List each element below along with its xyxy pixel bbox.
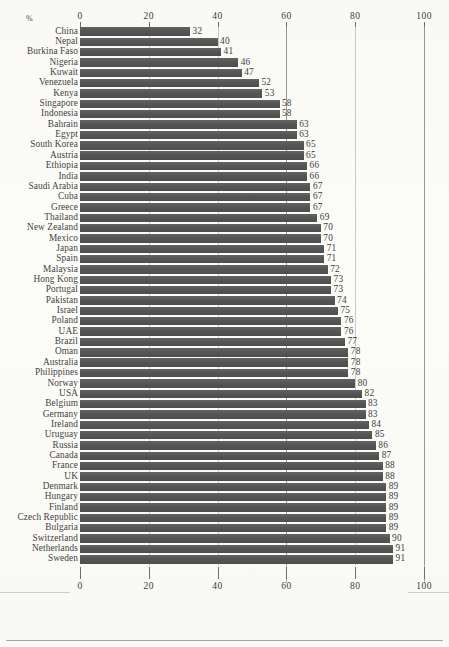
bar-value-label: 78 xyxy=(351,367,361,377)
bar xyxy=(80,296,335,304)
category-label: Oman xyxy=(55,346,78,356)
category-label: Canada xyxy=(50,450,78,460)
bar xyxy=(80,462,383,470)
bar-value-label: 89 xyxy=(389,502,399,512)
category-label: Burkina Faso xyxy=(27,46,78,56)
bar-value-label: 76 xyxy=(344,326,354,336)
category-label: Cuba xyxy=(58,191,78,201)
category-label: Indonesia xyxy=(41,108,78,118)
category-label: Australia xyxy=(43,357,78,367)
bar xyxy=(80,545,393,553)
bar xyxy=(80,255,324,263)
bar-value-label: 71 xyxy=(327,243,337,253)
category-label: Bulgaria xyxy=(45,522,78,532)
category-label: Belgium xyxy=(45,398,78,408)
bar-value-label: 58 xyxy=(282,108,292,118)
category-label: UK xyxy=(64,471,78,481)
bar-value-label: 89 xyxy=(389,512,399,522)
bottom-axis-tick-label: 60 xyxy=(281,581,292,591)
bar-value-label: 78 xyxy=(351,357,361,367)
bottom-axis-tick-label: 80 xyxy=(350,581,361,591)
bottom-axis-tick-label: 20 xyxy=(144,581,155,591)
bar-value-label: 83 xyxy=(368,409,378,419)
bar xyxy=(80,555,393,563)
bar-value-label: 77 xyxy=(347,336,357,346)
category-label: Sweden xyxy=(48,553,78,563)
bottom-axis-tick-label: 0 xyxy=(77,581,82,591)
bar xyxy=(80,131,297,139)
category-label: Malaysia xyxy=(43,264,78,274)
bar-value-label: 75 xyxy=(341,305,351,315)
bottom-axis-tick-mark xyxy=(355,567,356,579)
category-label: Pakistan xyxy=(46,295,78,305)
bar xyxy=(80,120,297,128)
category-label: Kuwait xyxy=(50,67,78,77)
bottom-axis-tick-label: 100 xyxy=(416,581,432,591)
category-label: Norway xyxy=(47,378,78,388)
bottom-axis-tick-mark xyxy=(286,567,287,579)
bar-value-label: 86 xyxy=(378,440,388,450)
bar-value-label: 89 xyxy=(389,491,399,501)
bar xyxy=(80,214,317,222)
category-label: Egypt xyxy=(55,129,78,139)
top-axis-tick-label: 20 xyxy=(144,11,155,21)
category-label: South Korea xyxy=(30,139,78,149)
bar-value-label: 80 xyxy=(358,378,368,388)
bar xyxy=(80,79,259,87)
bar-value-label: 84 xyxy=(371,419,381,429)
bar xyxy=(80,410,366,418)
category-label: China xyxy=(55,26,78,36)
bar-value-label: 71 xyxy=(327,253,337,263)
bar-value-label: 66 xyxy=(310,160,320,170)
category-label: India xyxy=(58,171,78,181)
bar-value-label: 85 xyxy=(375,429,385,439)
bar xyxy=(80,172,307,180)
bar xyxy=(80,421,369,429)
category-label: Nigeria xyxy=(49,57,78,67)
category-label: New Zealand xyxy=(27,222,78,232)
category-label: Portugal xyxy=(46,284,78,294)
bar xyxy=(80,452,379,460)
top-axis-tick-label: 60 xyxy=(281,11,292,21)
bar-value-label: 73 xyxy=(334,284,344,294)
category-label: Austria xyxy=(50,150,78,160)
bar-value-label: 72 xyxy=(330,264,340,274)
category-label: Greece xyxy=(51,202,78,212)
bar-value-label: 66 xyxy=(310,171,320,181)
bar-value-label: 32 xyxy=(193,26,203,36)
category-label: Germany xyxy=(43,409,78,419)
bar xyxy=(80,265,328,273)
bar-value-label: 78 xyxy=(351,346,361,356)
bar xyxy=(80,58,238,66)
bar xyxy=(80,69,242,77)
bar-value-label: 90 xyxy=(392,533,402,543)
bar-value-label: 40 xyxy=(220,36,230,46)
category-label: Spain xyxy=(56,253,78,263)
bar-value-label: 91 xyxy=(396,553,406,563)
category-label: USA xyxy=(59,388,78,398)
bar-row: Sweden91 xyxy=(0,554,449,564)
category-label: Ethiopia xyxy=(46,160,78,170)
bar xyxy=(80,534,390,542)
category-label: Israel xyxy=(57,305,78,315)
axis-unit-label: % xyxy=(26,14,33,23)
bar-value-label: 83 xyxy=(368,398,378,408)
bar-value-label: 82 xyxy=(365,388,375,398)
bar xyxy=(80,514,386,522)
bar xyxy=(80,141,304,149)
bar-value-label: 41 xyxy=(224,46,234,56)
bar xyxy=(80,327,341,335)
bar xyxy=(80,245,324,253)
category-label: Poland xyxy=(52,315,78,325)
bottom-axis-tick-mark xyxy=(80,567,81,579)
scan-artifact-line xyxy=(408,592,449,593)
bar-value-label: 70 xyxy=(323,233,333,243)
top-axis-tick-label: 40 xyxy=(212,11,223,21)
category-label: Russia xyxy=(53,440,78,450)
bar xyxy=(80,503,386,511)
category-label: Czech Republic xyxy=(17,512,78,522)
top-axis-tick-label: 80 xyxy=(350,11,361,21)
bottom-axis-tick-label: 40 xyxy=(212,581,223,591)
bar xyxy=(80,162,307,170)
category-label: Kenya xyxy=(53,88,78,98)
